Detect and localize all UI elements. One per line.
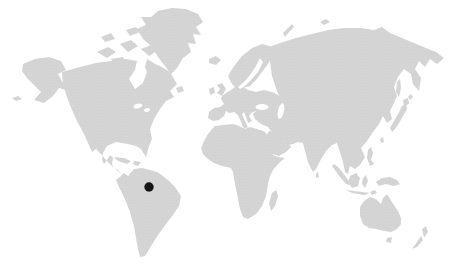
black-sea <box>256 104 269 110</box>
world-map-image <box>0 0 475 277</box>
location-marker-dot <box>144 182 153 191</box>
world-map-container <box>0 0 475 277</box>
